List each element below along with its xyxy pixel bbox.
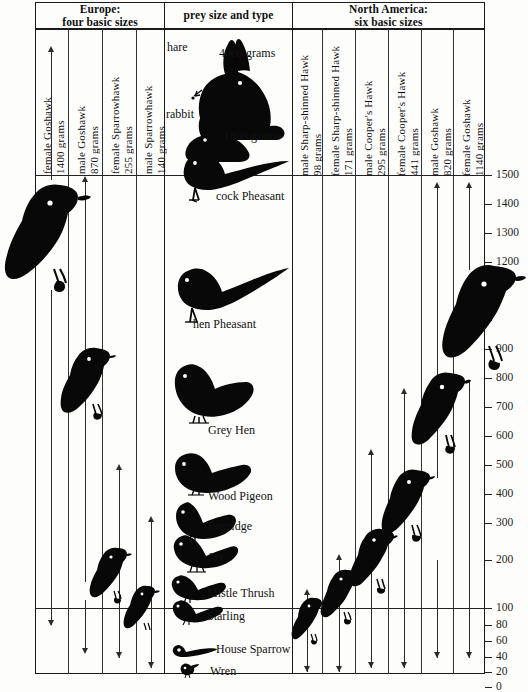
ytick-200: 200 (496, 554, 513, 565)
figure-caption (52, 680, 512, 689)
raptor-silhouette-na-female-goshawk (440, 262, 526, 364)
species-name: male Cooper's Hawk (362, 44, 375, 176)
ytick-700: 700 (496, 401, 513, 412)
prey-label-house-sparrow: House Sparrow (216, 643, 290, 655)
ytick-400: 400 (496, 488, 513, 499)
prey-weight-rabbit: 1800 grams (224, 130, 280, 142)
ytick-20: 20 (496, 666, 508, 677)
range-arrowhead-up-eu-female-goshawk (48, 46, 54, 52)
col-label-na-male-ss-hawk: male Sharp-shinned Hawk 98 grams (298, 36, 324, 176)
species-name: male Sharp-shinned Hawk (298, 36, 311, 176)
column-rule-na-4 (421, 29, 422, 674)
header-band: Europe: four basic sizes prey size and t… (35, 2, 485, 29)
raptor-silhouette-na-female-coopers-hawk (379, 467, 435, 537)
col-label-eu-male-sparrowhawk: male Sparrowhawk 140 grams (142, 44, 168, 174)
prey-weight-hare: 4000 grams (219, 47, 275, 59)
range-line-na-female-goshawk (469, 188, 470, 270)
range-arrowhead-up-na-male-goshawk (434, 182, 440, 188)
species-weight: 171 grams (342, 36, 355, 176)
ytick-1400: 1400 (496, 198, 519, 209)
hen-pheasant-silhouette (170, 258, 290, 326)
ytick-800: 800 (496, 372, 513, 383)
column-rule-prey-na (292, 29, 293, 674)
range-arrowhead-up-na-female-ss (336, 554, 342, 560)
col-label-na-female-goshawk: female Goshawk 1140 grams (460, 58, 486, 176)
raptor-silhouette-eu-male-goshawk (58, 345, 116, 417)
col-label-eu-female-goshawk: female Goshawk 1400 grams (41, 44, 67, 174)
species-name: male Sparrowhawk (142, 44, 155, 174)
range-arrowhead-up-eu-male-sparrowhawk (148, 516, 154, 522)
species-name: female Sharp-shinned Hawk (329, 36, 342, 176)
species-name: female Goshawk (460, 58, 473, 176)
range-arrowhead-down-na-male-goshawk (434, 652, 440, 658)
prey-label-hen-pheasant: hen Pheasant (193, 318, 256, 330)
header-north-america: North America: six basic sizes (293, 3, 484, 28)
prey-label-hare: hare (167, 41, 188, 53)
header-na-line1: North America: (349, 3, 428, 15)
prey-label-grey-hen: Grey Hen (208, 424, 255, 436)
house-sparrow-silhouette (170, 642, 218, 660)
col-label-na-male-coopers: male Cooper's Hawk 295 grams (362, 44, 388, 176)
raptor-silhouette-eu-male-sparrowhawk (122, 584, 160, 630)
species-weight: 870 grams (88, 44, 101, 174)
ytick-1500: 1500 (496, 169, 519, 180)
species-weight: 255 grams (122, 44, 135, 174)
range-arrowhead-up-na-male-coopers (368, 449, 374, 455)
species-name: male Goshawk (428, 62, 441, 176)
col-label-na-female-coopers: female Cooper's Hawk 441 grams (395, 44, 421, 176)
ytick-40: 40 (496, 651, 508, 662)
ytick-60: 60 (496, 635, 508, 646)
range-arrowhead-down-na-male-ss (304, 666, 310, 672)
prey-label-jay: Jay (208, 551, 224, 563)
ytick-500: 500 (496, 459, 513, 470)
species-weight: 1400 grams (54, 44, 67, 174)
species-name: female Goshawk (41, 44, 54, 174)
jay-silhouette (168, 530, 240, 574)
ytick-80: 80 (496, 619, 508, 630)
column-rule-eu-3 (136, 29, 137, 674)
header-europe-line1: Europe: (80, 3, 121, 15)
range-line-eu-female-goshawk (51, 52, 52, 180)
gridline-100 (35, 608, 485, 609)
range-line-na-male-goshawk-low (437, 560, 438, 658)
range-arrowhead-down-na-female-ss (336, 666, 342, 672)
raptor-silhouette-eu-female-goshawk (2, 181, 92, 293)
range-arrowhead-up-na-female-goshawk (466, 182, 472, 188)
prey-label-cock-pheasant: cock Pheasant (216, 190, 284, 202)
header-prey: prey size and type (165, 3, 293, 28)
range-arrowhead-up-eu-female-sparrowhawk (116, 464, 122, 470)
range-arrowhead-down-eu-female-sparrowhawk (116, 652, 122, 658)
range-arrowhead-down-na-female-goshawk (466, 652, 472, 658)
prey-label-wren: Wren (210, 665, 236, 677)
ytick-600: 600 (496, 430, 513, 441)
ytick-1300: 1300 (496, 227, 519, 238)
range-arrowhead-down-eu-male-sparrowhawk (148, 662, 154, 668)
prey-label-rabbit: rabbit (166, 108, 194, 120)
range-line-eu-male-goshawk-low (85, 600, 86, 652)
species-name: female Sparrowhawk (109, 44, 122, 174)
species-weight: 295 grams (375, 44, 388, 176)
header-prey-label: prey size and type (183, 9, 273, 21)
species-weight: 820 grams (441, 62, 454, 176)
species-weight: 98 grams (311, 36, 324, 176)
header-europe-line2: four basic sizes (62, 16, 138, 28)
range-line-eu-female-goshawk-low (51, 290, 52, 625)
ytick-100: 100 (496, 602, 513, 613)
wren-silhouette (178, 662, 200, 678)
range-arrowhead-down-na-female-coopers (401, 662, 407, 668)
col-label-na-female-ss-hawk: female Sharp-shinned Hawk 171 grams (329, 36, 355, 176)
species-name: female Cooper's Hawk (395, 44, 408, 176)
species-weight: 1140 grams (473, 58, 486, 176)
header-na-line2: six basic sizes (355, 16, 423, 28)
range-arrowhead-down-eu-female-goshawk (48, 620, 54, 626)
range-arrowhead-up-na-male-ss (304, 589, 310, 595)
raptor-silhouette-na-male-goshawk (409, 370, 471, 448)
col-label-na-male-goshawk: male Goshawk 820 grams (428, 62, 454, 176)
header-europe: Europe: four basic sizes (36, 3, 165, 28)
col-label-eu-male-goshawk: male Goshawk 870 grams (75, 44, 101, 174)
ytick-300: 300 (496, 517, 513, 528)
species-weight: 441 grams (408, 44, 421, 176)
range-arrowhead-up-na-female-coopers (401, 388, 407, 394)
species-name: male Goshawk (75, 44, 88, 174)
